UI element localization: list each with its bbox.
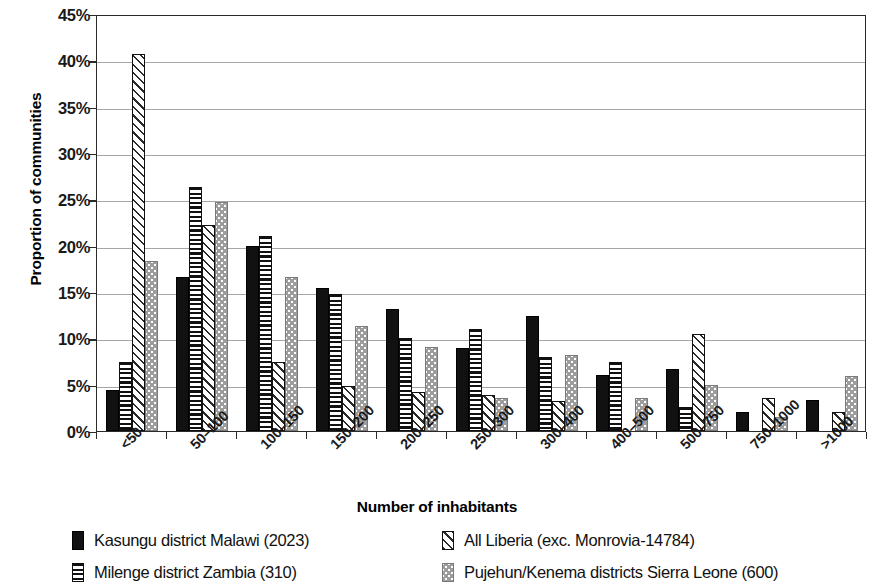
y-axis-tick-mark [89, 108, 96, 109]
x-axis-tick-mark [656, 432, 657, 439]
y-axis-tick-mark [89, 15, 96, 16]
bar [132, 54, 145, 431]
bar [189, 187, 202, 431]
bar-chart-figure: Proportion of communities 0%5%10%15%20%2… [0, 0, 874, 585]
bar [609, 362, 622, 431]
y-axis-tick-mark [89, 247, 96, 248]
bar [106, 390, 119, 431]
legend-swatch-diagonal-hatch-icon [442, 531, 454, 550]
x-axis-tick-mark [376, 432, 377, 439]
bar [399, 338, 412, 431]
x-axis-tick-mark [586, 432, 587, 439]
bar [666, 369, 679, 431]
y-axis-tick-mark [89, 61, 96, 62]
legend-label: Pujehun/Kenema districts Sierra Leone (6… [464, 563, 778, 582]
y-axis-tick-mark [89, 432, 96, 433]
legend-swatch-grey-dotted-icon [442, 563, 454, 582]
bar-group [596, 16, 648, 431]
legend-swatch-horizontal-stripes-icon [72, 563, 84, 582]
bar-group [176, 16, 228, 431]
y-axis-tick-mark [89, 200, 96, 201]
y-axis-tick-mark [89, 154, 96, 155]
bar [259, 236, 272, 431]
bar-group [456, 16, 508, 431]
bar [596, 375, 609, 431]
bar [246, 246, 259, 431]
y-axis-tick-label: 30% [20, 145, 90, 164]
plot-area [96, 15, 866, 432]
bar-group [666, 16, 718, 431]
bar [145, 261, 158, 431]
x-axis-tick-mark [516, 432, 517, 439]
y-axis-tick-label: 15% [20, 284, 90, 303]
y-axis-tick-label: 25% [20, 191, 90, 210]
bar [806, 400, 819, 432]
y-axis-tick-mark [89, 339, 96, 340]
x-axis-tick-mark [96, 432, 97, 439]
bar [329, 294, 342, 431]
bar [202, 225, 215, 431]
bar-group [736, 16, 788, 431]
y-axis-tick-label: 5% [20, 376, 90, 395]
x-axis-tick-mark [236, 432, 237, 439]
y-axis-tick-label: 40% [20, 52, 90, 71]
x-axis-tick-mark [306, 432, 307, 439]
legend-swatch-solid-black-icon [72, 531, 84, 550]
legend-item: Pujehun/Kenema districts Sierra Leone (6… [442, 563, 872, 582]
bar-group [246, 16, 298, 431]
legend-label: Milenge district Zambia (310) [94, 563, 297, 582]
bar-group [106, 16, 158, 431]
chart-legend: Kasungu district Malawi (2023)All Liberi… [72, 524, 874, 585]
y-axis-tick-label: 20% [20, 237, 90, 256]
y-axis-tick-label: 45% [20, 6, 90, 25]
bar-group [316, 16, 368, 431]
bar [316, 288, 329, 431]
bar-group [386, 16, 438, 431]
x-axis-tick-mark [796, 432, 797, 439]
x-axis-tick-mark [166, 432, 167, 439]
bar [456, 348, 469, 431]
bar [215, 202, 228, 431]
legend-item: All Liberia (exc. Monrovia-14784) [442, 531, 872, 550]
bar-group [806, 16, 858, 431]
x-axis-tick-mark [866, 432, 867, 439]
x-axis-tick-mark [726, 432, 727, 439]
y-axis-tick-mark [89, 293, 96, 294]
bar [119, 362, 132, 431]
y-axis-tick-label: 0% [20, 423, 90, 442]
y-axis-tick-label: 35% [20, 98, 90, 117]
x-axis-tick-mark [446, 432, 447, 439]
bar [736, 412, 749, 431]
bar [526, 316, 539, 431]
y-axis-tick-label: 10% [20, 330, 90, 349]
legend-label: All Liberia (exc. Monrovia-14784) [464, 531, 695, 550]
y-axis-tick-mark [89, 386, 96, 387]
bar [469, 329, 482, 431]
bar [386, 309, 399, 431]
bar [176, 277, 189, 431]
legend-item: Milenge district Zambia (310) [72, 563, 442, 582]
legend-item: Kasungu district Malawi (2023) [72, 531, 442, 550]
x-axis-title: Number of inhabitants [0, 498, 874, 516]
bar-group [526, 16, 578, 431]
legend-label: Kasungu district Malawi (2023) [94, 531, 309, 550]
bar [539, 357, 552, 431]
